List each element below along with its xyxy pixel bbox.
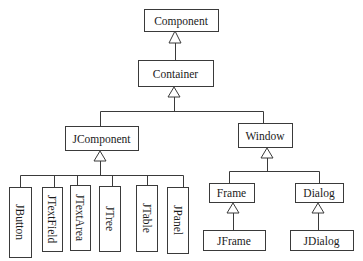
class-box-jbutton: JButton <box>10 188 32 258</box>
inheritance-arrow-jcomponent <box>94 151 106 161</box>
class-hierarchy-diagram: ComponentContainerJComponentWindowJButto… <box>0 0 363 261</box>
class-box-jdialog: JDialog <box>291 231 354 251</box>
class-label: JTextArea <box>74 194 86 241</box>
class-box-jtextarea: JTextArea <box>71 186 91 251</box>
class-label: JComponent <box>72 133 131 146</box>
class-label: JFrame <box>217 235 251 247</box>
class-box-jframe: JFrame <box>204 231 266 251</box>
class-label: Frame <box>217 187 246 199</box>
inheritance-arrow-dialog <box>312 203 324 213</box>
class-label: JButton <box>14 204 26 240</box>
class-box-component: Component <box>145 10 219 32</box>
class-box-jpanel: JPanel <box>168 188 189 254</box>
class-box-dialog: Dialog <box>296 184 344 203</box>
class-box-container: Container <box>139 61 214 87</box>
class-label: JPanel <box>172 205 184 235</box>
inheritance-arrow-window <box>261 148 273 158</box>
class-label: JDialog <box>304 235 340 248</box>
class-label: Container <box>153 68 199 80</box>
class-label: Dialog <box>303 187 335 200</box>
class-label: Window <box>245 130 285 142</box>
class-box-jtable: JTable <box>137 186 158 252</box>
class-box-window: Window <box>239 124 293 148</box>
class-box-jtextfield: JTextField <box>43 188 63 252</box>
class-label: JTree <box>104 206 116 231</box>
class-label: JTextField <box>46 195 58 244</box>
class-label: JTable <box>141 203 153 233</box>
class-boxes: ComponentContainerJComponentWindowJButto… <box>10 10 354 258</box>
class-label: Component <box>154 15 208 28</box>
class-box-jtree: JTree <box>100 187 121 252</box>
inheritance-arrow-frame <box>227 203 239 213</box>
inheritance-arrow-component <box>169 31 181 43</box>
class-box-frame: Frame <box>210 184 255 203</box>
inheritance-arrow-container <box>168 87 180 97</box>
class-box-jcomponent: JComponent <box>66 127 139 151</box>
